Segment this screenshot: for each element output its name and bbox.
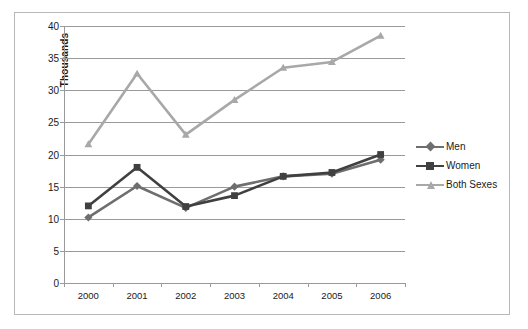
y-axis-tick-label: 25	[48, 117, 59, 128]
legend-swatch	[416, 160, 444, 172]
x-axis-tick-mark	[356, 283, 357, 287]
legend-swatch	[416, 179, 444, 191]
legend-item-men: Men	[416, 137, 511, 156]
data-point-marker	[280, 173, 287, 180]
legend-item-both-sexes: Both Sexes	[416, 175, 511, 194]
y-axis-tick-label: 20	[48, 149, 59, 160]
legend-label: Both Sexes	[446, 179, 497, 190]
series-plot	[64, 26, 405, 283]
data-point-marker	[134, 164, 141, 171]
legend-marker-diamond	[425, 142, 435, 152]
gridline	[64, 283, 405, 284]
plot-area: 0510152025303540 20002001200220032004200…	[64, 26, 405, 283]
plot-inner: 0510152025303540 20002001200220032004200…	[64, 26, 405, 283]
x-axis-tick-mark	[405, 283, 406, 287]
chart-legend: MenWomenBoth Sexes	[416, 137, 511, 194]
x-axis-tick-label: 2003	[224, 290, 245, 301]
legend-marker-square	[426, 162, 434, 170]
x-axis-tick-mark	[113, 283, 114, 287]
x-axis-tick-mark	[64, 283, 65, 287]
y-axis-tick-label: 15	[48, 181, 59, 192]
data-point-marker	[230, 183, 238, 191]
x-axis-tick-label: 2004	[273, 290, 294, 301]
data-point-marker	[133, 70, 141, 77]
legend-marker-triangle	[427, 181, 435, 189]
series-women	[85, 151, 384, 210]
data-point-marker	[377, 151, 384, 158]
y-axis-tick-label: 30	[48, 85, 59, 96]
x-axis-tick-mark	[210, 283, 211, 287]
y-axis-tick-label: 5	[53, 245, 59, 256]
y-axis-tick-label: 0	[53, 278, 59, 289]
data-point-marker	[182, 203, 189, 210]
legend-label: Women	[446, 160, 480, 171]
x-axis-tick-label: 2002	[175, 290, 196, 301]
y-axis-tick-label: 35	[48, 53, 59, 64]
chart-frame: Thousands 0510152025303540 2000200120022…	[14, 12, 510, 315]
legend-swatch	[416, 141, 444, 153]
y-axis-tick-label: 40	[48, 21, 59, 32]
x-axis-tick-label: 2000	[78, 290, 99, 301]
x-axis-tick-label: 2006	[370, 290, 391, 301]
data-point-marker	[231, 192, 238, 199]
y-axis-tick-label: 10	[48, 213, 59, 224]
series-line	[88, 36, 380, 145]
x-axis-tick-mark	[259, 283, 260, 287]
data-point-marker	[329, 169, 336, 176]
legend-label: Men	[446, 141, 465, 152]
data-point-marker	[377, 32, 385, 39]
x-axis-tick-label: 2001	[126, 290, 147, 301]
series-both-sexes	[84, 32, 384, 148]
x-axis-tick-mark	[161, 283, 162, 287]
series-men	[84, 156, 384, 222]
legend-item-women: Women	[416, 156, 511, 175]
x-axis-tick-mark	[308, 283, 309, 287]
data-point-marker	[85, 203, 92, 210]
x-axis-tick-label: 2005	[321, 290, 342, 301]
